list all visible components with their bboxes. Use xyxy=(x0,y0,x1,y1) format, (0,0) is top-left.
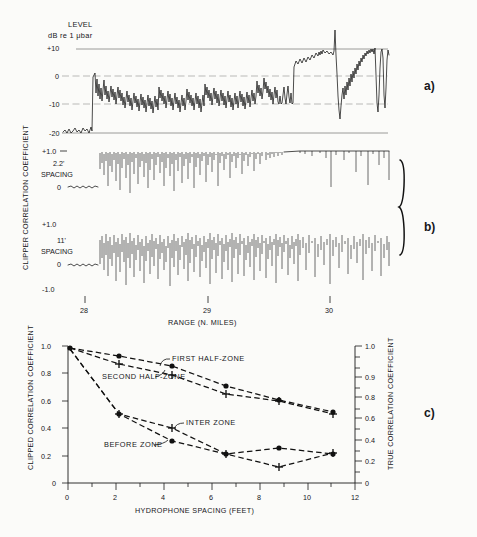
panel-c-left-ticks: 1.0 0.8 0.6 0.4 0.2 0 xyxy=(41,342,68,488)
panel-b-top-ytick-2p2: +1.0 xyxy=(42,147,56,156)
panel-c-ytick-1p0: 1.0 xyxy=(41,342,51,351)
panel-b-y-axis-label: CLIPPER CORRELATION COEFFICIENT xyxy=(21,125,30,270)
panel-b-zero-ytick-11: 0 xyxy=(57,260,61,269)
panel-a-axis-title-line1: LEVEL xyxy=(68,20,93,29)
panel-c-xtick-label-6: 6 xyxy=(209,493,213,502)
annotation-inter-zone: INTER ZONE xyxy=(186,418,236,427)
panel-c-y2tick-1p0: 1.0 xyxy=(365,342,375,351)
panel-letter-b: b) xyxy=(424,220,435,234)
panel-a-ytick-zero: 0 xyxy=(55,72,59,81)
panel-a: LEVEL dB re 1 μbar +10 0 -10 -20 xyxy=(47,20,389,138)
panel-b-subpanel-11ft: +1.0 11' SPACING 0 -1.0 xyxy=(41,220,389,294)
panel-a-ytick-minus10: -10 xyxy=(49,100,59,109)
panel-b-baseline-11 xyxy=(68,264,98,266)
panel-b-bottom-ytick-11: -1.0 xyxy=(42,285,54,294)
panel-b-xlabel-28: 28 xyxy=(80,306,88,315)
panel-c-ytick-0: 0 xyxy=(52,479,56,488)
panel-a-ytick-plus10: +10 xyxy=(47,44,59,53)
panel-b-x-axis-label: RANGE (N. MILES) xyxy=(168,318,237,327)
panel-c-y2tick-0p6: 0.6 xyxy=(365,414,375,423)
panel-b-spacing-value-11: 11' xyxy=(57,236,66,245)
panel-b-spikes-2p2 xyxy=(100,151,389,193)
panel-c-y-axis-label: CLIPPED CORRELATION COEFFICIENT xyxy=(26,325,35,470)
panel-b-xlabel-30: 30 xyxy=(325,306,333,315)
panel-b-baseline-2p2 xyxy=(68,186,98,188)
series-path-before-zone xyxy=(70,349,333,454)
series-markers-second-half-zone xyxy=(115,360,337,418)
panel-c-xtick-label-8: 8 xyxy=(257,493,261,502)
panel-c-x-axis-label: HYDROPHONE SPACING (FEET) xyxy=(135,506,254,515)
panel-b-x-axis: 28 29 30 RANGE (N. MILES) xyxy=(80,296,333,327)
panel-c-y2tick-0p9: 0.9 xyxy=(365,373,375,382)
panel-b-subpanel-2p2ft: +1.0 2.2' SPACING 0 xyxy=(41,147,389,193)
figure-canvas: LEVEL dB re 1 μbar +10 0 -10 -20 CLIPPER… xyxy=(0,0,477,537)
panel-c-ytick-0p2: 0.2 xyxy=(41,452,51,461)
panel-c-xtick-label-12: 12 xyxy=(351,493,359,502)
panel-c-ytick-0p4: 0.4 xyxy=(41,424,51,433)
panel-c-ytick-0p8: 0.8 xyxy=(41,369,51,378)
panel-c-xtick-label-4: 4 xyxy=(161,493,165,502)
panel-c-y2tick-0p4: 0.4 xyxy=(365,436,375,445)
panel-c: 1.0 0.8 0.6 0.4 0.2 0 CLIPPED CORRELATIO… xyxy=(26,325,395,515)
panel-c-x-ticks: 0 2 4 6 8 10 12 xyxy=(65,483,359,502)
panel-c-xtick-label-2: 2 xyxy=(113,493,117,502)
panel-letter-c: c) xyxy=(424,406,435,420)
panel-b-spacing-value-2p2: 2.2' xyxy=(53,159,65,168)
panel-b-top-ytick-11: +1.0 xyxy=(42,220,56,229)
panel-b-spacing-word-11: SPACING xyxy=(41,247,73,256)
panel-c-ytick-0p6: 0.6 xyxy=(41,397,51,406)
panel-b-spacing-word-2p2: SPACING xyxy=(41,170,73,179)
panel-b-grouping-brace xyxy=(399,160,404,255)
panel-a-ytick-minus20: -20 xyxy=(49,129,59,138)
annotation-second-half-zone-line1: SECOND HALF-ZONE xyxy=(102,372,186,381)
panel-letter-a: a) xyxy=(424,79,435,93)
panel-a-axis-title-line2: dB re 1 μbar xyxy=(48,31,93,40)
annotation-before-zone: BEFORE ZONE xyxy=(104,440,162,449)
panel-c-y2tick-0p8: 0.8 xyxy=(365,393,375,402)
panel-c-y2tick-0: 0 xyxy=(365,479,369,488)
panel-b-spikes-11 xyxy=(100,233,389,286)
panel-b-zero-ytick-2p2: 0 xyxy=(57,183,61,192)
panel-c-xtick-label-0: 0 xyxy=(65,493,69,502)
panel-b-xlabel-29: 29 xyxy=(203,306,211,315)
panel-c-xtick-label-10: 10 xyxy=(303,493,311,502)
panel-c-right-ticks: 1.0 0.9 0.8 0.6 0.4 0.2 0 xyxy=(355,342,375,488)
panel-a-level-trace xyxy=(63,30,389,133)
panel-c-y2tick-0p2: 0.2 xyxy=(365,457,375,466)
annotation-first-half-zone: FIRST HALF-ZONE xyxy=(172,354,245,363)
panel-c-y2-axis-label: TRUE CORRELATION COEFFICIENT xyxy=(386,337,395,470)
panel-b: CLIPPER CORRELATION COEFFICIENT +1.0 2.2… xyxy=(21,125,404,327)
